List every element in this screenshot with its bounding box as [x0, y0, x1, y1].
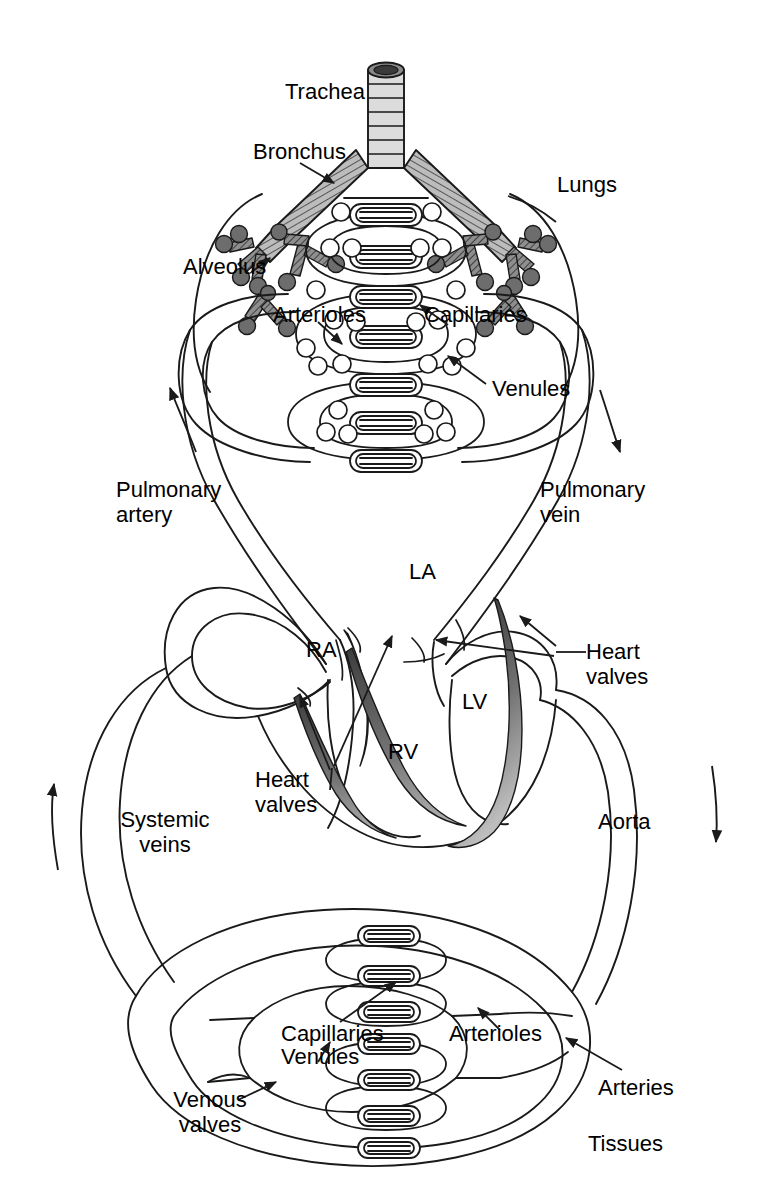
label-arterioles-lung: Arterioles — [273, 303, 366, 328]
label-arteries: Arteries — [598, 1076, 674, 1101]
label-pulmonary-artery: Pulmonary artery — [116, 478, 221, 527]
label-alveolus: Alveolus — [183, 255, 266, 280]
arteries-pointer-arrow — [566, 1038, 622, 1070]
circulatory-system-diagram: Trachea Bronchus Lungs Alveolus Arteriol… — [0, 0, 762, 1178]
label-venules-lung: Venules — [492, 377, 570, 402]
label-capillaries-lung: Capillaries — [424, 303, 527, 328]
label-heart-valves-left: Heart valves — [586, 640, 648, 689]
label-lungs: Lungs — [557, 173, 617, 198]
aorta-inner — [540, 700, 611, 992]
label-left-ventricle: LV — [462, 690, 487, 715]
systemic-veins-flow-arrow — [52, 784, 58, 870]
label-right-ventricle: RV — [388, 740, 418, 765]
aorta-flow-arrow — [712, 766, 717, 842]
aorta-outer — [556, 690, 637, 1004]
label-trachea: Trachea — [285, 80, 365, 105]
diagram-canvas — [0, 0, 762, 1178]
trachea-shape — [368, 63, 404, 169]
label-systemic-veins: Systemic veins — [90, 808, 240, 857]
label-arterioles-tissue: Arterioles — [449, 1022, 542, 1047]
label-venules-tissue: Venules — [281, 1045, 359, 1070]
label-venous-valves: Venous valves — [150, 1088, 270, 1137]
heart-valves-right-pointer-1 — [300, 696, 330, 770]
lung-capillary-bed — [288, 198, 484, 472]
label-bronchus: Bronchus — [253, 140, 346, 165]
label-tissues: Tissues — [588, 1132, 663, 1157]
mitral-valve — [346, 648, 466, 826]
label-heart-valves-right: Heart valves — [255, 768, 317, 817]
label-left-atrium: LA — [409, 560, 436, 585]
label-right-atrium: RA — [306, 638, 337, 663]
left-atrium-inner — [432, 642, 444, 706]
bronchus-pointer-arrow — [300, 163, 334, 183]
pulmonary-artery-inner — [206, 342, 340, 640]
pulmonary-vein-flow-arrow — [600, 390, 620, 452]
label-capillaries-tissue: Capillaries — [281, 1022, 384, 1047]
label-aorta: Aorta — [598, 810, 651, 835]
label-pulmonary-vein: Pulmonary vein — [540, 478, 645, 527]
lungs-leader-line — [508, 196, 556, 222]
lung-vessel-inner-left — [203, 312, 314, 448]
